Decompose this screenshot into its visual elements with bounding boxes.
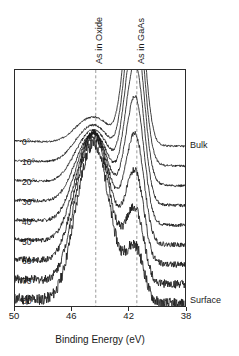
spectrum-curve [15, 129, 185, 267]
spectrum-curve [15, 131, 185, 247]
spectrum-curve [15, 70, 185, 207]
plot-area [14, 69, 186, 307]
spectrum-curve [15, 70, 185, 187]
gaas-peak-label: As in GaAs [136, 18, 146, 64]
angle-label: 30° [22, 197, 35, 207]
xps-spectra-figure: As in Oxide As in GaAs Bulk Surface Bind… [0, 0, 239, 356]
surface-annotation: Surface [190, 295, 221, 305]
angle-label: 10° [22, 157, 35, 167]
x-axis-tick-label: 38 [174, 310, 198, 321]
spectra-curves [15, 70, 185, 306]
angle-label: 60° [22, 256, 35, 266]
oxide-peak-label: As in Oxide [94, 17, 104, 64]
x-axis-tick-label: 42 [117, 310, 141, 321]
bulk-annotation: Bulk [190, 140, 208, 150]
x-axis-title: Binding Energy (eV) [0, 334, 200, 345]
angle-label: 80° [22, 296, 35, 306]
spectrum-curve [15, 70, 185, 167]
angle-label: 50° [22, 237, 35, 247]
angle-label: 70° [22, 276, 35, 286]
angle-label: 40° [22, 217, 35, 227]
x-axis-tick-label: 46 [59, 310, 83, 321]
x-axis-tick-label: 50 [2, 310, 26, 321]
spectrum-curve [15, 70, 185, 147]
angle-label: 0° [22, 137, 30, 147]
angle-label: 20° [22, 177, 35, 187]
